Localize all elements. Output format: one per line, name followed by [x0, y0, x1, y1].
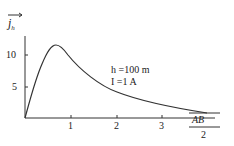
x-tick-label-2: 2 [114, 121, 119, 131]
x-tick-label-3: 3 [159, 121, 164, 131]
y-axis-label: jh [8, 18, 15, 33]
x-tick-label-1: 1 [68, 121, 73, 131]
y-tick-label-10: 10 [6, 50, 16, 60]
x-axis-label-denominator: 2 [201, 130, 206, 140]
annotation-current: I =1 A [111, 77, 137, 87]
y-tick-label-5: 5 [12, 82, 17, 92]
annotation-height: h =100 m [111, 65, 149, 75]
x-axis-label-numerator: AB [192, 115, 204, 125]
